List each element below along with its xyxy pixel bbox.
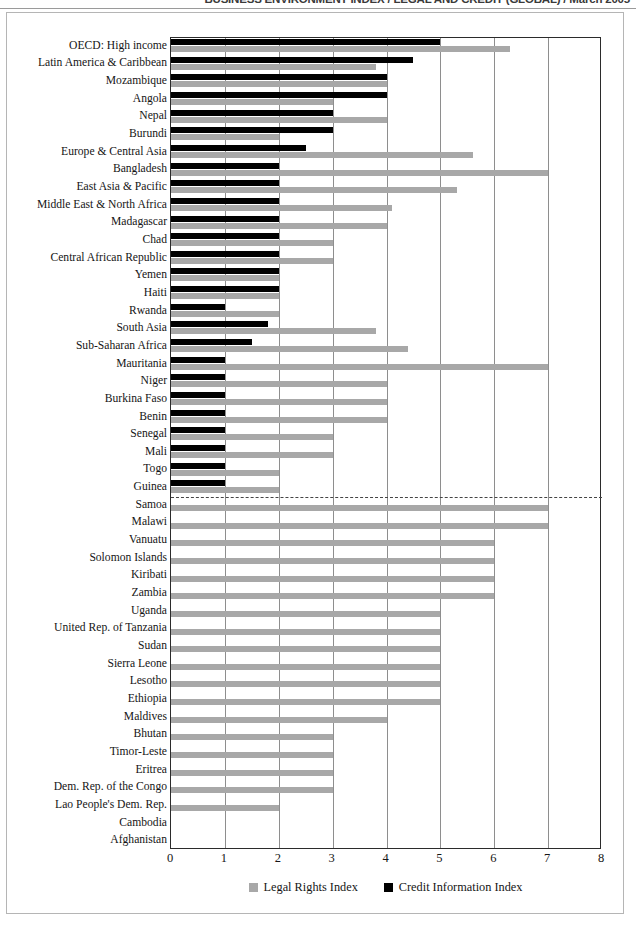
bar-row — [171, 38, 600, 56]
bar-credit-information — [171, 110, 333, 116]
bar-legal-rights — [171, 64, 376, 70]
bar-legal-rights — [171, 540, 494, 546]
legend-item-legal-rights: Legal Rights Index — [249, 880, 358, 895]
bar-legal-rights — [171, 328, 376, 334]
bar-credit-information — [171, 145, 306, 151]
bar-credit-information — [171, 445, 225, 451]
x-axis-tick-label: 2 — [275, 851, 281, 866]
bar-row — [171, 426, 600, 444]
bar-credit-information — [171, 357, 225, 363]
y-axis-label: Mali — [15, 446, 167, 458]
y-axis-label: Maldives — [15, 711, 167, 723]
bar-row — [171, 197, 600, 215]
bar-credit-information — [171, 198, 279, 204]
bar-credit-information — [171, 127, 333, 133]
bar-legal-rights — [171, 434, 333, 440]
x-axis-tick-label: 0 — [167, 851, 173, 866]
bar-legal-rights — [171, 152, 473, 158]
bar-credit-information — [171, 427, 225, 433]
bar-row — [171, 832, 600, 850]
y-axis-label: Timor-Leste — [15, 746, 167, 758]
y-axis-label: Vanuatu — [15, 534, 167, 546]
y-axis-label: Chad — [15, 234, 167, 246]
bar-row — [171, 250, 600, 268]
bar-legal-rights — [171, 805, 279, 811]
bar-legal-rights — [171, 417, 387, 423]
bar-row — [171, 532, 600, 550]
bar-legal-rights — [171, 470, 279, 476]
x-axis-tick-label: 7 — [544, 851, 550, 866]
bar-row — [171, 779, 600, 797]
bar-legal-rights — [171, 629, 440, 635]
bar-credit-information — [171, 321, 268, 327]
y-axis-label: Bhutan — [15, 728, 167, 740]
x-axis: 012345678 — [170, 849, 601, 871]
y-axis-label: Sierra Leone — [15, 658, 167, 670]
bar-row — [171, 497, 600, 515]
bar-credit-information — [171, 216, 279, 222]
bar-row — [171, 444, 600, 462]
bar-legal-rights — [171, 346, 408, 352]
y-axis-label: Sub-Saharan Africa — [15, 340, 167, 352]
bar-legal-rights — [171, 664, 440, 670]
y-axis-label: Latin America & Caribbean — [15, 57, 167, 69]
running-header: BUSINESS ENVIRONMENT INDEX / LEGAL AND C… — [0, 0, 636, 7]
y-axis-label: Angola — [15, 93, 167, 105]
bar-legal-rights — [171, 611, 440, 617]
bar-row — [171, 162, 600, 180]
bar-row — [171, 762, 600, 780]
bar-row — [171, 726, 600, 744]
bar-row — [171, 285, 600, 303]
bar-row — [171, 691, 600, 709]
bar-legal-rights — [171, 81, 387, 87]
bar-legal-rights — [171, 223, 387, 229]
x-axis-tick-label: 6 — [490, 851, 496, 866]
bar-row — [171, 73, 600, 91]
bar-row — [171, 744, 600, 762]
chart-legend: Legal Rights Index Credit Information In… — [170, 877, 601, 897]
y-axis-label: Senegal — [15, 428, 167, 440]
bar-credit-information — [171, 286, 279, 292]
bar-legal-rights — [171, 99, 333, 105]
y-axis-label: Lesotho — [15, 675, 167, 687]
bar-legal-rights — [171, 646, 440, 652]
bar-legal-rights — [171, 240, 333, 246]
y-axis-label: Central African Republic — [15, 252, 167, 264]
bar-row — [171, 356, 600, 374]
x-axis-tick-label: 3 — [329, 851, 335, 866]
y-axis-label: Rwanda — [15, 305, 167, 317]
y-axis-label: OECD: High income — [15, 40, 167, 52]
bar-legal-rights — [171, 364, 548, 370]
x-axis-tick-label: 8 — [598, 851, 604, 866]
y-axis-label: Zambia — [15, 587, 167, 599]
bar-legal-rights — [171, 399, 387, 405]
y-axis-label: Lao People's Dem. Rep. — [15, 799, 167, 811]
bar-row — [171, 568, 600, 586]
y-axis-label: Kiribati — [15, 569, 167, 581]
bar-legal-rights — [171, 717, 387, 723]
bar-legal-rights — [171, 576, 494, 582]
x-axis-tick-label: 5 — [436, 851, 442, 866]
x-axis-tick-label: 1 — [221, 851, 227, 866]
legend-label-credit-information: Credit Information Index — [399, 880, 523, 895]
bar-credit-information — [171, 339, 252, 345]
y-axis-label: Burkina Faso — [15, 393, 167, 405]
bar-row — [171, 638, 600, 656]
bar-credit-information — [171, 180, 279, 186]
bar-row — [171, 550, 600, 568]
bar-row — [171, 585, 600, 603]
bar-legal-rights — [171, 381, 387, 387]
bar-row — [171, 303, 600, 321]
bar-row — [171, 815, 600, 833]
bar-rows — [171, 38, 600, 848]
y-axis-label: Europe & Central Asia — [15, 146, 167, 158]
legend-item-credit-information: Credit Information Index — [384, 880, 523, 895]
y-axis-label: Benin — [15, 411, 167, 423]
bar-legal-rights — [171, 258, 333, 264]
y-axis-label: Guinea — [15, 481, 167, 493]
y-axis-label: Solomon Islands — [15, 552, 167, 564]
bar-row — [171, 179, 600, 197]
bar-legal-rights — [171, 46, 510, 52]
y-axis-label: Malawi — [15, 516, 167, 528]
bar-row — [171, 709, 600, 727]
